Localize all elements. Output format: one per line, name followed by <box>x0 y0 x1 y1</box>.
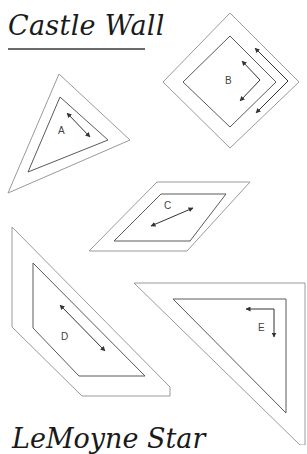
piece-c-template: C <box>89 182 250 251</box>
piece-label-e: E <box>258 322 265 333</box>
grain-arrow-icon <box>151 208 193 226</box>
grain-arrow-icon <box>67 113 90 137</box>
piece-e-template: E <box>134 283 305 445</box>
piece-label-d: D <box>61 331 68 342</box>
piece-d-template: D <box>12 227 170 396</box>
grain-arrow-icon <box>240 61 260 101</box>
piece-a-template: A <box>8 74 130 193</box>
piece-b-template: B <box>163 13 299 148</box>
next-pattern-title: LeMoyne Star <box>12 423 205 454</box>
piece-label-c: C <box>164 200 171 211</box>
piece-label-b: B <box>225 75 232 86</box>
grain-arrow-icon <box>60 305 105 351</box>
piece-label-a: A <box>58 125 65 136</box>
